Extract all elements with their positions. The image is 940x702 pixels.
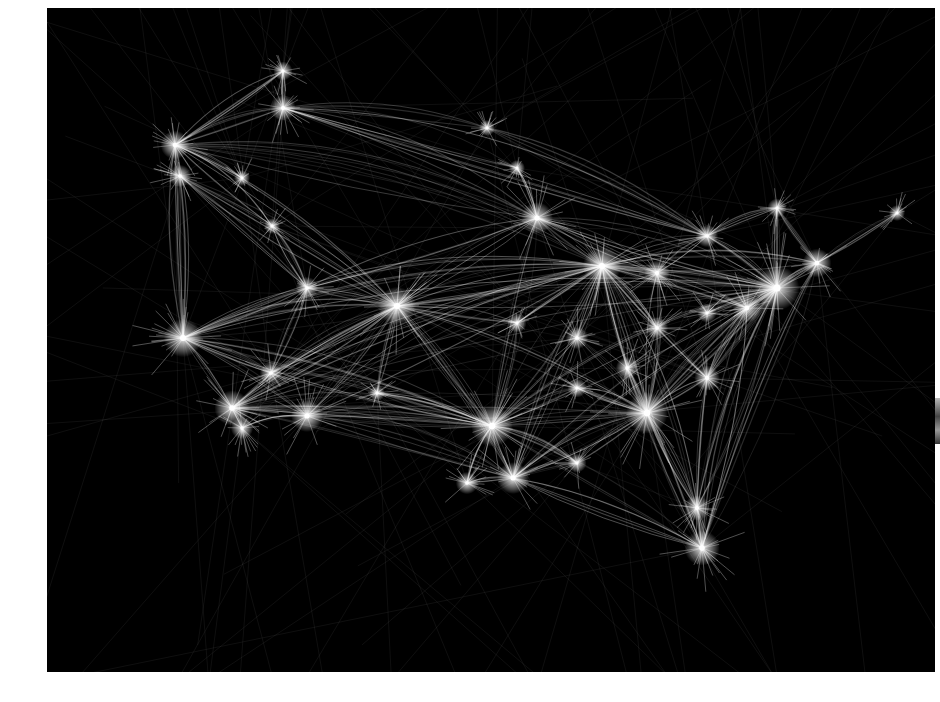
- hub-nodes: [132, 55, 915, 592]
- hub-edmonton: [466, 111, 507, 146]
- flight-map-image: Flight paths over the United States rend…: [47, 8, 935, 672]
- page-edge-artifact: [935, 398, 940, 444]
- flight-paths-canvas: [47, 8, 935, 672]
- hub-winnipeg: [497, 157, 532, 187]
- route-lines: [169, 71, 897, 548]
- hub-halifax: [879, 192, 915, 230]
- hub-spokane: [226, 158, 258, 192]
